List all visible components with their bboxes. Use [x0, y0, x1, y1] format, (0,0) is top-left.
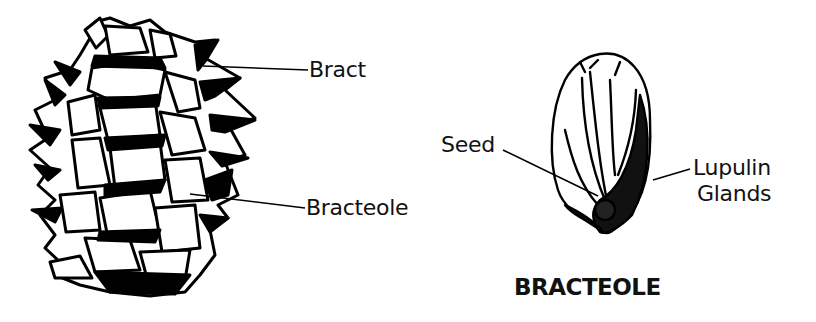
bracteole-drawing: [552, 54, 651, 234]
label-seed: Seed: [441, 133, 495, 157]
label-bract: Bract: [309, 58, 366, 82]
label-lupulin: Lupulin: [693, 156, 771, 180]
label-bracteole: Bracteole: [306, 196, 408, 220]
label-glands: Glands: [697, 182, 771, 206]
hop-cone-drawing: [30, 18, 255, 296]
bracteole-caption: BRACTEOLE: [514, 274, 661, 300]
